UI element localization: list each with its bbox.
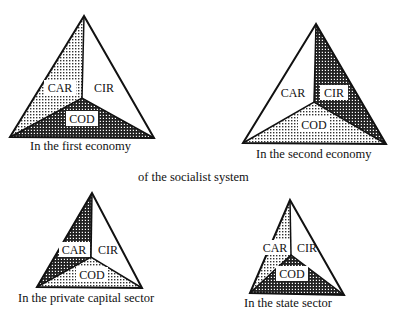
divider-lines	[91, 193, 92, 257]
label-car: CAR	[62, 243, 87, 257]
caption-first-economy: In the first economy	[30, 139, 131, 154]
triangle-first-economy: CAR CIR COD	[10, 16, 154, 138]
label-cod: COD	[301, 118, 327, 132]
label-cir: CIR	[98, 243, 118, 257]
label-cir: CIR	[324, 86, 344, 100]
triangle-private-capital-sector: CAR CIR COD	[37, 193, 142, 288]
caption-second-economy: In the second economy	[256, 147, 372, 162]
label-cod: COD	[279, 267, 305, 281]
divider-lines	[290, 200, 291, 255]
triangle-second-economy: CAR CIR COD	[243, 24, 386, 144]
caption-state-sector: In the state sector	[244, 296, 332, 311]
label-car: CAR	[263, 241, 288, 255]
label-cod: COD	[69, 112, 95, 126]
label-car: CAR	[48, 81, 73, 95]
label-cod: COD	[79, 268, 105, 282]
label-cir: CIR	[297, 241, 317, 255]
triangle-state-sector: CAR CIR COD	[250, 200, 344, 295]
caption-private-capital-sector: In the private capital sector	[18, 291, 154, 306]
label-car: CAR	[281, 86, 306, 100]
caption-socialist-system: of the socialist system	[138, 170, 249, 185]
label-cir: CIR	[94, 81, 114, 95]
